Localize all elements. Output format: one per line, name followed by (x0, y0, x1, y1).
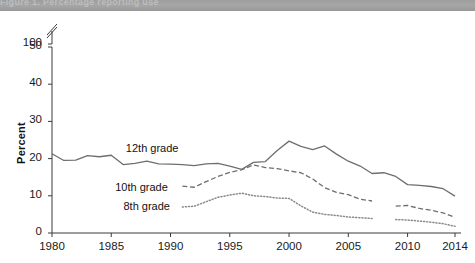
x-tick-label-2000: 2000 (267, 240, 311, 252)
y-tick-label-20: 20 (16, 151, 42, 163)
page-banner-strip: Figure 1. Percentage reporting use (0, 0, 475, 11)
chart-figure: Percent 01020304050100198019851990199520… (0, 11, 475, 263)
x-tick-label-2005: 2005 (326, 240, 370, 252)
line-chart-plot (0, 11, 475, 263)
series-label-8th-grade: 8th grade (123, 200, 169, 212)
y-tick-label-30: 30 (16, 113, 42, 125)
y-tick-label-0: 0 (16, 225, 42, 237)
x-tick-label-1990: 1990 (149, 240, 193, 252)
x-tick-label-1980: 1980 (30, 240, 74, 252)
y-tick-label-10: 10 (16, 188, 42, 200)
y-tick-label-100: 100 (16, 36, 42, 48)
x-tick-label-2014: 2014 (433, 240, 475, 252)
series-label-10th-grade: 10th grade (115, 181, 168, 193)
banner-ghost-text: Figure 1. Percentage reporting use (0, 0, 159, 7)
x-tick-label-1985: 1985 (89, 240, 133, 252)
y-tick-label-40: 40 (16, 76, 42, 88)
x-tick-label-2010: 2010 (386, 240, 430, 252)
series-label-12th-grade: 12th grade (126, 142, 179, 154)
x-tick-label-1995: 1995 (208, 240, 252, 252)
